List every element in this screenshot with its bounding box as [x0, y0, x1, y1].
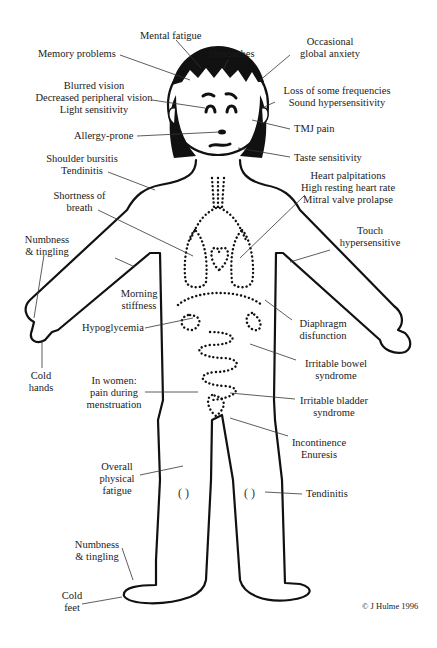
label-irritable-bladder: Irritable bladder syndrome — [296, 395, 372, 419]
label-anxiety: Occasional global anxiety — [294, 36, 366, 60]
label-hypoglycemia: Hypoglycemia — [82, 322, 144, 334]
bladder — [208, 395, 224, 416]
label-menstruation: In women: pain during menstruation — [86, 375, 142, 411]
label-morning-stiffness: Morning stiffness — [118, 288, 160, 312]
diaphragm — [178, 293, 262, 305]
label-hearing: Loss of some frequencies Sound hypersens… — [276, 85, 398, 109]
left-kidney — [182, 315, 200, 330]
label-headaches: Headaches — [209, 48, 254, 60]
label-cold-feet: Cold feet — [60, 590, 84, 614]
label-mental-fatigue: Mental fatigue — [140, 30, 202, 42]
label-taste-sensitivity: Taste sensitivity — [294, 152, 362, 164]
label-overall-fatigue: Overall physical fatigue — [96, 461, 138, 497]
label-shoulder: Shoulder bursitis Tendinitis — [42, 153, 122, 177]
label-shortness-of-breath: Shortness of breath — [52, 190, 107, 214]
label-ibs: Irritable bowel syndrome — [300, 358, 372, 382]
label-memory-problems: Memory problems — [38, 48, 116, 60]
intestines — [199, 332, 236, 400]
right-kidney — [247, 313, 261, 330]
right-ear — [262, 108, 268, 124]
label-heart: Heart palpitations High resting heart ra… — [296, 170, 400, 206]
label-touch-hypersensitive: Touch hypersensitive — [330, 225, 410, 249]
label-tmj-pain: TMJ pain — [294, 123, 335, 135]
right-lung — [231, 230, 253, 287]
mouth — [210, 144, 230, 146]
label-diaphragm: Diaphragm disfunction — [293, 318, 353, 342]
label-numbness-feet: Numbness & tingling — [72, 539, 122, 563]
right-knee-marker: ( ) — [244, 486, 255, 500]
left-lung — [185, 230, 207, 287]
label-cold-hands: Cold hands — [26, 370, 56, 394]
heart-icon — [211, 248, 227, 270]
label-tendinitis-knee: Tendinitis — [306, 488, 348, 500]
label-allergy-prone: Allergy-prone — [74, 130, 133, 142]
label-incontinence: Incontinence Enuresis — [290, 437, 348, 461]
label-vision: Blurred vision Decreased peripheral visi… — [34, 80, 154, 116]
label-numbness-hands: Numbness & tingling — [22, 234, 72, 258]
copyright: © J Hulme 1996 — [362, 600, 418, 612]
left-knee-marker: ( ) — [178, 486, 189, 500]
trachea — [190, 178, 246, 240]
